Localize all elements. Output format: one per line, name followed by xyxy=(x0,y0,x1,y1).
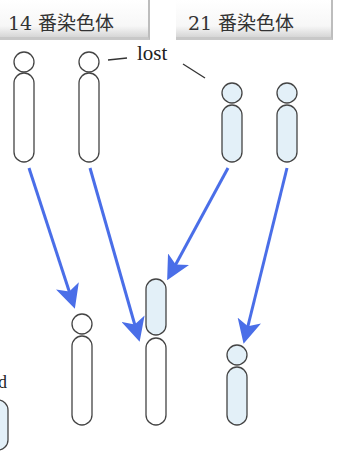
arrow-icon xyxy=(245,168,287,338)
chromosome-14-a xyxy=(14,52,34,162)
chromosome-21-a xyxy=(222,83,242,162)
chromosome-14-b xyxy=(79,52,99,162)
chromosome-21-b xyxy=(277,83,297,162)
result-chromosome-21 xyxy=(227,345,247,425)
chromosome-diagram xyxy=(0,0,337,458)
arrow-icon xyxy=(29,168,73,303)
lost-pointer-line-right xyxy=(183,64,205,78)
arrow-icon xyxy=(170,168,228,275)
arrow-icon xyxy=(90,168,138,336)
result-chromosome-14 xyxy=(72,314,92,425)
result-fused-chromosome xyxy=(146,279,166,425)
partial-chromosome xyxy=(0,400,8,450)
lost-pointer-line-left xyxy=(108,58,127,60)
